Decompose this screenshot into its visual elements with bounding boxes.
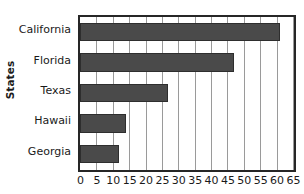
plot-area [78,15,296,172]
x-axis-tick-label: 50 [237,174,251,188]
x-axis-tick-label: 60 [270,174,284,188]
gridline [293,17,294,170]
x-axis-tick-label: 5 [93,174,100,188]
y-axis-tick-label: California [0,24,71,36]
plot-inner [80,17,294,170]
y-axis-tick-label: Florida [0,55,71,67]
x-axis-tick-label: 55 [254,174,268,188]
bar-chart: States CaliforniaFloridaTexasHawaiiGeorg… [0,0,304,194]
x-axis-tick-label: 15 [123,174,137,188]
x-axis-tick-label: 25 [155,174,169,188]
x-axis-tick-label: 0 [77,174,84,188]
x-axis-tick-label: 20 [139,174,153,188]
x-axis-tick-label: 35 [188,174,202,188]
bar [80,114,126,132]
x-axis-tick-label: 10 [106,174,120,188]
bar [80,145,119,163]
bar [80,53,234,71]
y-axis-tick-labels: CaliforniaFloridaTexasHawaiiGeorgia [0,15,74,172]
bar [80,84,168,102]
x-axis-tick-label: 40 [205,174,219,188]
x-axis-tick-label: 45 [221,174,235,188]
x-axis-tick-label: 30 [172,174,186,188]
chart-title [78,0,296,1]
bar [80,23,280,41]
y-axis-tick-label: Georgia [0,146,71,158]
x-axis-tick-labels: 05101520253035404550556065 [78,174,296,192]
x-axis-tick-label: 65 [287,174,301,188]
y-axis-tick-label: Texas [0,85,71,97]
y-axis-tick-label: Hawaii [0,115,71,127]
